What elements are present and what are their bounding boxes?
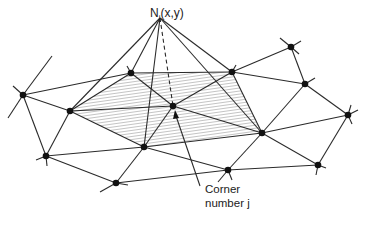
corner-label-line1: Corner: [205, 182, 250, 196]
label-args: (x,y): [160, 6, 183, 20]
label-base: N: [150, 6, 159, 20]
corner-label-line2: number j: [205, 196, 250, 210]
corner-number-label: Corner number j: [205, 182, 250, 210]
corner-node-j: [170, 103, 177, 110]
finite-element-mesh-diagram: [0, 0, 365, 227]
shape-function-label: Nj(x,y): [150, 6, 184, 25]
